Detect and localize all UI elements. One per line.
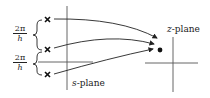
pole-marker-3 <box>45 72 50 77</box>
z-plane-mapped-point <box>158 48 163 53</box>
spacing-numerator: 2π <box>13 53 27 63</box>
s-plane-suffix: -plane <box>77 78 105 88</box>
spacing-label-upper: 2π h <box>13 24 27 43</box>
spacing-denominator: h <box>13 34 27 43</box>
spacing-label-lower: 2π h <box>13 53 27 72</box>
z-plane-suffix: -plane <box>172 24 200 34</box>
spacing-denominator: h <box>13 63 27 72</box>
diagram-canvas <box>0 0 210 98</box>
pole-marker-2 <box>45 47 50 52</box>
mapping-arrow-2 <box>54 39 154 48</box>
z-plane-label: z-plane <box>167 24 200 34</box>
s-plane-label: s-plane <box>72 78 105 88</box>
brace-upper <box>33 20 42 50</box>
pole-marker-1 <box>45 17 50 22</box>
spacing-numerator: 2π <box>13 24 27 34</box>
mapping-arrow-3 <box>54 49 153 74</box>
brace-lower <box>33 52 42 75</box>
mapping-arrow-1 <box>54 19 157 38</box>
